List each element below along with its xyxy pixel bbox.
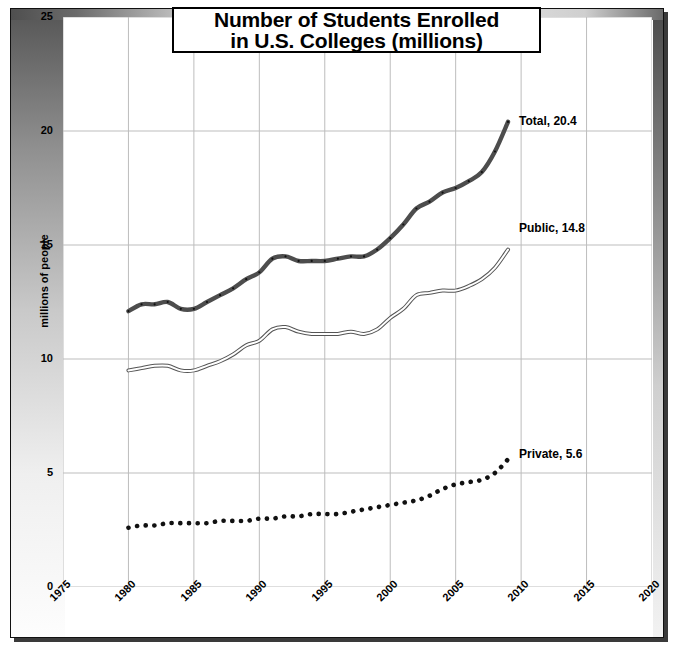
data-point-marker [219, 294, 221, 296]
data-point-marker [206, 301, 208, 303]
data-point-marker [298, 260, 300, 262]
data-point-marker [494, 150, 496, 152]
data-point-marker [376, 248, 378, 250]
data-point-marker [481, 171, 483, 173]
gridlines [63, 17, 652, 587]
data-point-marker [258, 271, 260, 273]
data-point-marker [180, 308, 182, 310]
data-point-marker [311, 260, 313, 262]
y-tick-label: 10 [19, 352, 53, 364]
chart-figure: 0510152025 19751980198519901995200020052… [0, 0, 675, 652]
title-line-1: Number of Students Enrolled [214, 9, 499, 30]
plot-area [63, 17, 652, 587]
data-point-marker [337, 258, 339, 260]
data-point-marker [428, 201, 430, 203]
data-point-marker [245, 278, 247, 280]
data-point-marker [507, 121, 509, 123]
data-point-marker [127, 310, 129, 312]
data-point-marker [389, 237, 391, 239]
y-tick-label: 20 [19, 124, 53, 136]
data-point-marker [271, 258, 273, 260]
y-tick-label: 0 [19, 580, 53, 592]
data-point-marker [363, 255, 365, 257]
y-axis-label: millions of people [38, 226, 50, 336]
series-label-public: Public, 14.8 [519, 221, 585, 235]
data-point-marker [154, 303, 156, 305]
data-point-marker [232, 287, 234, 289]
data-point-marker [468, 180, 470, 182]
series-label-total: Total, 20.4 [519, 114, 577, 128]
y-tick-label: 25 [19, 10, 53, 22]
right-gradient-margin [653, 9, 663, 637]
series-line-private [128, 459, 508, 527]
data-point-marker [324, 260, 326, 262]
data-point-marker [415, 207, 417, 209]
series-layer [127, 121, 509, 528]
plot-svg [63, 17, 652, 587]
data-point-marker [441, 191, 443, 193]
data-point-marker [193, 308, 195, 310]
title-line-2: in U.S. Colleges (millions) [230, 30, 482, 51]
data-point-marker [284, 255, 286, 257]
chart-title: Number of Students Enrolled in U.S. Coll… [172, 7, 541, 53]
data-point-marker [455, 187, 457, 189]
series-label-private: Private, 5.6 [519, 447, 582, 461]
y-tick-label: 5 [19, 466, 53, 478]
series-line-total [128, 122, 508, 311]
data-point-marker [350, 255, 352, 257]
data-point-marker [140, 303, 142, 305]
data-point-marker [167, 301, 169, 303]
data-point-marker [402, 223, 404, 225]
